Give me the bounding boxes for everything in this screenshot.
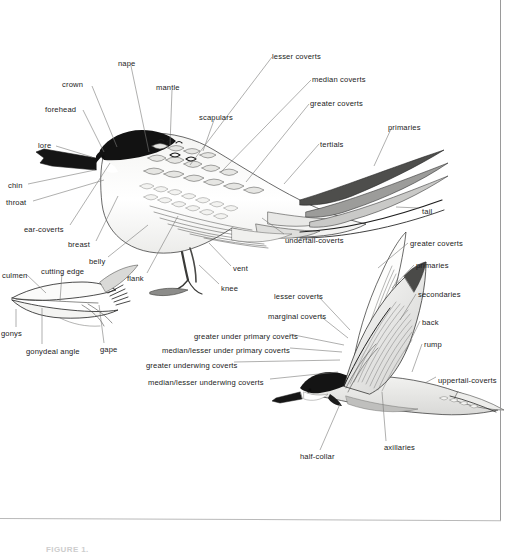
leader-median-lesser-under-primary: [290, 348, 342, 352]
label-median-coverts: median coverts: [312, 76, 366, 84]
label-undertail-coverts: undertail-coverts: [285, 237, 344, 245]
leader-uppertail-coverts: [425, 377, 436, 383]
leader-forehead: [83, 110, 104, 152]
label-scapulars: scapulars: [199, 114, 233, 122]
leader-belly: [108, 225, 148, 257]
leader-nape: [131, 66, 149, 152]
label-forehead: forehead: [45, 106, 76, 114]
leader-back: [405, 321, 420, 352]
label-gonys: gonys: [1, 330, 22, 338]
leader-breast: [96, 196, 118, 241]
label-back: back: [422, 319, 439, 327]
label-greater-coverts-fly: greater coverts: [410, 240, 463, 248]
label-marginal-coverts: marginal coverts: [268, 313, 326, 321]
leader-mantle: [170, 90, 172, 145]
label-axillaries: axillaries: [384, 444, 415, 452]
leader-primaries: [374, 129, 391, 166]
label-flank: flank: [127, 275, 144, 283]
leader-ear-coverts: [70, 163, 110, 225]
label-chin: chin: [8, 182, 23, 190]
label-cutting-edge: cutting edge: [41, 268, 84, 276]
leader-throat: [33, 180, 104, 201]
label-median-lesser-underwing: median/lesser underwing coverts: [148, 379, 264, 387]
label-ear-coverts: ear-coverts: [24, 226, 64, 234]
leader-tertials: [284, 144, 319, 184]
leader-axillaries: [382, 392, 386, 441]
label-greater-coverts: greater coverts: [310, 100, 363, 108]
leader-undertail-coverts: [262, 218, 284, 234]
label-nape: nape: [118, 60, 136, 68]
label-vent: vent: [233, 265, 248, 273]
label-crown: crown: [62, 81, 83, 89]
leader-flank: [147, 216, 178, 273]
leader-secondaries: [400, 294, 416, 320]
label-tail: tail: [422, 208, 432, 216]
label-median-lesser-under-primary: median/lesser under primary coverts: [162, 347, 290, 355]
leader-greater-coverts-fly: [378, 243, 408, 268]
leader-rump: [412, 344, 422, 372]
label-culmen: culmen: [2, 272, 27, 280]
leader-lore: [56, 146, 92, 157]
label-belly: belly: [89, 258, 105, 266]
label-knee: knee: [221, 285, 238, 293]
label-tertials: tertials: [320, 141, 344, 149]
label-breast: breast: [68, 241, 90, 249]
label-primaries: primaries: [388, 124, 421, 132]
label-greater-under-primary: greater under primary coverts: [194, 333, 298, 341]
label-half-collar: half-collar: [300, 453, 335, 461]
leader-gape: [99, 305, 104, 343]
leader-culmen: [26, 274, 46, 293]
leader-vent: [209, 243, 231, 266]
leader-greater-underwing-coverts: [234, 360, 340, 362]
leader-greater-coverts: [246, 104, 309, 182]
page-border-vertical: [500, 0, 501, 521]
leader-knee: [199, 265, 219, 284]
leader-tail: [396, 207, 419, 208]
leader-primaries-fly: [392, 265, 414, 288]
label-primaries-fly: primaries: [416, 262, 449, 270]
label-throat: throat: [6, 199, 26, 207]
label-greater-underwing-coverts: greater underwing coverts: [146, 362, 238, 370]
leader-crown: [92, 86, 117, 147]
label-mantle: mantle: [156, 84, 180, 92]
leader-lesser-coverts: [190, 57, 272, 165]
label-uppertail-coverts: uppertail-coverts: [438, 377, 497, 385]
leader-median-lesser-underwing: [270, 372, 338, 379]
label-lesser-coverts-fly: lesser coverts: [274, 293, 323, 301]
label-lesser-coverts: lesser coverts: [272, 53, 321, 61]
figure-page: crownnapeforeheadmantlescapularslorechin…: [0, 0, 521, 556]
label-lore: lore: [38, 142, 51, 150]
figure-caption: FIGURE 1.: [46, 545, 89, 554]
label-gonydeal-angle: gonydeal angle: [26, 348, 80, 356]
leader-half-collar: [320, 404, 340, 450]
label-gape: gape: [100, 346, 118, 354]
leader-chin: [28, 170, 95, 184]
leader-cutting-edge: [60, 273, 62, 301]
label-rump: rump: [424, 341, 442, 349]
leader-median-coverts: [221, 80, 311, 172]
label-secondaries: secondaries: [418, 291, 461, 299]
